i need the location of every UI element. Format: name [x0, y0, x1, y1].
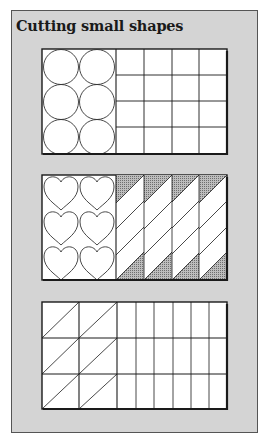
diagram-canvas [0, 0, 263, 440]
panel-triangles-rectangles [42, 302, 228, 410]
panel-circles-squares [42, 49, 228, 155]
panel-hearts-diagonals [42, 175, 228, 281]
